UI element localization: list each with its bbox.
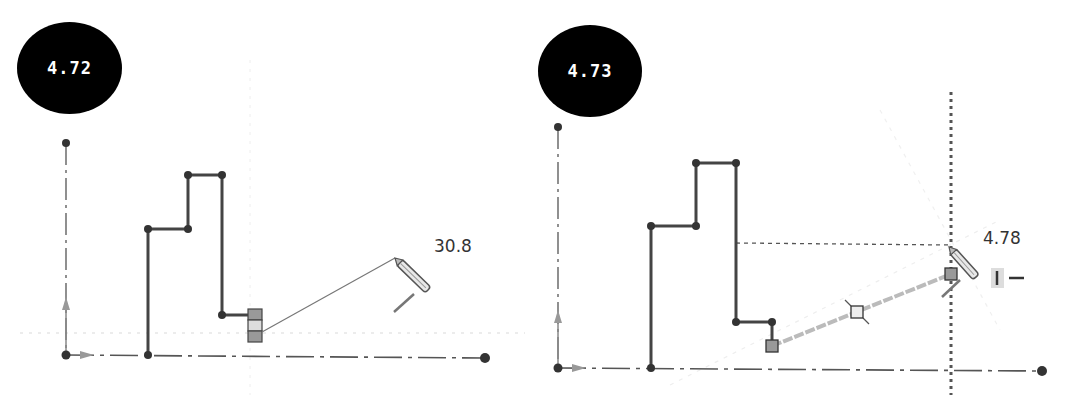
vertex-point[interactable] <box>647 222 655 230</box>
sketch-profile[interactable] <box>148 175 248 355</box>
vertex-point[interactable] <box>144 225 152 233</box>
endpoint-handle[interactable] <box>248 320 262 331</box>
vertex-point[interactable] <box>144 351 152 359</box>
active-endpoint-handle[interactable] <box>945 268 957 280</box>
origin-point[interactable] <box>554 364 563 373</box>
sketch-panel-4-72: 4.72 30.8 <box>0 0 530 405</box>
sketch-panel-4-73: 4.73 4.78 <box>530 0 1065 405</box>
rubber-band-line <box>262 258 395 332</box>
x-arrow-head-icon <box>572 364 586 372</box>
axis-endpoint[interactable] <box>480 353 490 363</box>
step-label: 4.73 <box>568 61 613 81</box>
y-arrow-head-icon <box>554 310 562 323</box>
step-label: 4.72 <box>47 58 92 78</box>
axis-endpoint[interactable] <box>554 123 562 131</box>
vertex-point[interactable] <box>692 222 700 230</box>
origin-point[interactable] <box>62 351 71 360</box>
step-badge: 4.72 <box>17 22 122 114</box>
vertex-point[interactable] <box>732 318 740 326</box>
step-badge: 4.73 <box>538 25 642 117</box>
axis-endpoint[interactable] <box>62 139 70 147</box>
horizontal-axis[interactable] <box>66 355 485 358</box>
y-arrow-head-icon <box>62 297 70 310</box>
vertex-point[interactable] <box>692 159 700 167</box>
endpoint-handle[interactable] <box>766 340 778 352</box>
endpoint-handle[interactable] <box>248 309 262 320</box>
vertex-point[interactable] <box>732 159 740 167</box>
midpoint-tick <box>845 300 851 306</box>
horizontal-axis[interactable] <box>558 368 1042 371</box>
vertex-point[interactable] <box>184 225 192 233</box>
vertex-point[interactable] <box>184 171 192 179</box>
dimension-readout: 4.78 <box>983 228 1021 248</box>
axis-endpoint[interactable] <box>1037 366 1047 376</box>
midpoint-tick <box>863 318 869 324</box>
midpoint-handle[interactable] <box>851 306 863 318</box>
sketch-profile[interactable] <box>651 163 772 368</box>
x-arrow-head-icon <box>80 351 94 359</box>
endpoint-handle[interactable] <box>248 331 262 342</box>
vertex-point[interactable] <box>768 318 776 326</box>
vertex-point[interactable] <box>218 171 226 179</box>
cursor-tick-mark <box>394 294 414 312</box>
dimension-readout: 30.8 <box>434 236 472 256</box>
vertex-point[interactable] <box>647 364 655 372</box>
pencil-cursor-icon <box>392 255 431 293</box>
horizontal-alignment-guide <box>736 243 951 245</box>
vertex-point[interactable] <box>218 311 226 319</box>
